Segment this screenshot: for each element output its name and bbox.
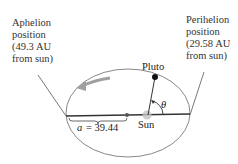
semimajor-var: a (77, 122, 82, 133)
pluto-label: Pluto (142, 61, 164, 72)
aphelion-leader-line (38, 75, 66, 116)
theta-label: θ (161, 99, 166, 110)
orbit-arrow-shaft (82, 78, 110, 86)
orbit-diagram: Pluto Sun θ a = 39.44 (0, 0, 238, 164)
perihelion-leader-line (190, 72, 204, 115)
sun-label: Sun (138, 119, 155, 130)
radius-line (148, 77, 155, 115)
orbit-arrow-head-icon (76, 81, 86, 91)
ellipse-center-dot (125, 113, 129, 117)
semimajor-value: = 39.44 (86, 122, 119, 133)
pluto-dot (152, 74, 158, 80)
